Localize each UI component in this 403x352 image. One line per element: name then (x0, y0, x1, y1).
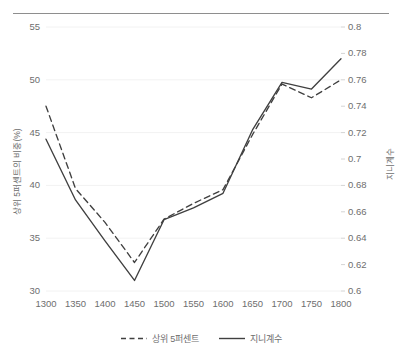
y-axis-right-tick-label: 0.76 (348, 75, 378, 85)
legend-swatch-dashed-line-icon (121, 334, 147, 343)
y-axis-right-tick-label: 0.8 (348, 22, 378, 32)
y-axis-left-title: 상위 5퍼센트의 비중(%) (10, 128, 22, 215)
legend-item-2[interactable]: 지니계수 (219, 332, 282, 345)
y-axis-left-tick-label: 50 (16, 75, 40, 85)
y-axis-right-tick-label: 0.74 (348, 101, 378, 111)
series-line-2 (46, 59, 341, 281)
y-axis-right-tick-label: 0.72 (348, 128, 378, 138)
y-axis-right-tick-label: 0.78 (348, 48, 378, 58)
chart-legend: 상위 5퍼센트지니계수 (0, 332, 403, 345)
legend-swatch-solid-line-icon (219, 334, 245, 343)
y-axis-right-tick-label: 0.68 (348, 180, 378, 190)
series-line-1 (46, 80, 341, 263)
chart-container: 5550454035300.80.780.760.740.720.70.680.… (0, 0, 403, 352)
y-axis-right-tick-label: 0.6 (348, 286, 378, 296)
x-axis-tick-label: 1800 (321, 299, 361, 309)
y-axis-left-tick-label: 55 (16, 22, 40, 32)
y-axis-right-title: 지니계수 (383, 148, 395, 180)
y-axis-left-tick-label: 35 (16, 233, 40, 243)
legend-label: 지니계수 (250, 332, 282, 345)
legend-label: 상위 5퍼센트 (152, 332, 200, 345)
y-axis-right-tick-label: 0.64 (348, 233, 378, 243)
y-axis-right-tick-label: 0.66 (348, 207, 378, 217)
y-axis-right-tick-label: 0.7 (348, 154, 378, 164)
legend-item-1[interactable]: 상위 5퍼센트 (121, 332, 200, 345)
y-axis-right-tick-label: 0.62 (348, 260, 378, 270)
y-axis-left-tick-label: 30 (16, 286, 40, 296)
